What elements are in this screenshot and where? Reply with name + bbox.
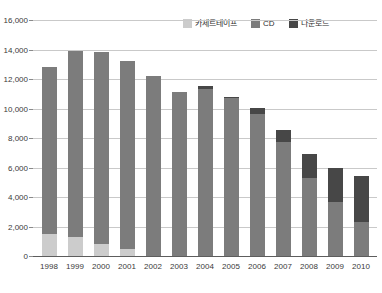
x-axis-tick-label: 2002 [144, 262, 162, 271]
bar-segment [224, 98, 239, 256]
x-axis-tick-label: 2001 [118, 262, 136, 271]
bar-column[interactable]: 2009 [322, 20, 348, 256]
bar-segment [276, 130, 291, 143]
bar-column[interactable]: 1999 [62, 20, 88, 256]
bar-column[interactable]: 2010 [348, 20, 374, 256]
x-axis-tick-label: 2007 [274, 262, 292, 271]
bar-column[interactable]: 2006 [244, 20, 270, 256]
y-axis-tick-label: 10,000 [4, 104, 28, 113]
bar-column[interactable]: 2005 [218, 20, 244, 256]
bar-column[interactable]: 2002 [140, 20, 166, 256]
bar-segment [354, 222, 369, 256]
bar-stack[interactable] [172, 92, 187, 256]
bar-column[interactable]: 2004 [192, 20, 218, 256]
bar-stack[interactable] [42, 67, 57, 256]
bar-stack[interactable] [120, 61, 135, 256]
x-axis-tick-label: 2010 [352, 262, 370, 271]
x-axis-tick-label: 2000 [92, 262, 110, 271]
bar-segment [302, 178, 317, 256]
bar-segment [250, 114, 265, 256]
bar-stack[interactable] [328, 168, 343, 256]
bar-segment [68, 51, 83, 237]
y-axis-tick-label: 6,000 [8, 163, 28, 172]
bar-segment [328, 202, 343, 256]
bar-column[interactable]: 2008 [296, 20, 322, 256]
y-tick-mark [29, 256, 33, 257]
x-axis-tick-label: 2006 [248, 262, 266, 271]
bar-chart: 카세트테이프CD다운로드 02,0004,0006,0008,00010,000… [0, 0, 382, 293]
x-axis-tick-label: 2005 [222, 262, 240, 271]
bar-stack[interactable] [198, 86, 213, 256]
y-axis-tick-label: 8,000 [8, 134, 28, 143]
bar-segment [172, 92, 187, 256]
bar-segment [328, 168, 343, 203]
plot-area: 02,0004,0006,0008,00010,00012,00014,0001… [33, 20, 377, 256]
bar-segment [146, 76, 161, 256]
bar-stack[interactable] [276, 130, 291, 256]
y-axis-tick-label: 12,000 [4, 75, 28, 84]
bar-stack[interactable] [94, 52, 109, 256]
bar-column[interactable]: 2007 [270, 20, 296, 256]
y-axis-tick-label: 2,000 [8, 222, 28, 231]
y-axis-tick-label: 14,000 [4, 45, 28, 54]
x-axis-tick-label: 1998 [40, 262, 58, 271]
bar-stack[interactable] [354, 176, 369, 256]
bar-segment [250, 108, 265, 115]
bar-column[interactable]: 2001 [114, 20, 140, 256]
bar-segment [120, 249, 135, 256]
bar-stack[interactable] [224, 97, 239, 256]
bar-segment [42, 234, 57, 256]
bar-segment [42, 67, 57, 234]
bar-column[interactable]: 1998 [36, 20, 62, 256]
y-axis-tick-label: 0 [24, 252, 28, 261]
x-axis-tick-label: 2008 [300, 262, 318, 271]
bar-stack[interactable] [146, 76, 161, 256]
bar-column[interactable]: 2000 [88, 20, 114, 256]
bar-stack[interactable] [302, 154, 317, 256]
x-axis-tick-label: 2009 [326, 262, 344, 271]
bar-segment [94, 244, 109, 256]
bar-segment [302, 154, 317, 178]
bar-stack[interactable] [68, 51, 83, 256]
x-axis-line [33, 256, 377, 257]
bar-segment [68, 237, 83, 256]
bar-stack[interactable] [250, 108, 265, 256]
y-axis-tick-label: 16,000 [4, 16, 28, 25]
x-axis-tick-label: 2003 [170, 262, 188, 271]
bar-segment [120, 61, 135, 248]
bar-segment [94, 52, 109, 244]
bar-segment [198, 89, 213, 256]
bar-segment [276, 142, 291, 256]
x-axis-tick-label: 2004 [196, 262, 214, 271]
bar-series-container: 1998199920002001200220032004200520062007… [33, 20, 377, 256]
x-axis-tick-label: 1999 [66, 262, 84, 271]
bar-segment [354, 176, 369, 222]
y-axis-tick-label: 4,000 [8, 193, 28, 202]
bar-column[interactable]: 2003 [166, 20, 192, 256]
